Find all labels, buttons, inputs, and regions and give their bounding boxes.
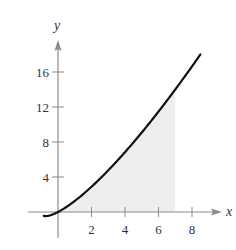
axes: 2468481216	[28, 40, 222, 238]
y-tick-label: 16	[36, 65, 50, 80]
chart: 2468481216 x y	[0, 0, 236, 250]
y-tick-label: 12	[36, 100, 49, 115]
y-tick-label: 8	[43, 135, 50, 150]
x-axis-label: x	[225, 204, 233, 219]
x-tick-label: 2	[88, 222, 95, 237]
shaded-area	[58, 90, 175, 213]
x-tick-label: 4	[122, 222, 129, 237]
x-tick-label: 6	[155, 222, 162, 237]
y-axis-label: y	[52, 18, 61, 33]
x-tick-label: 8	[189, 222, 196, 237]
y-tick-label: 4	[43, 170, 50, 185]
